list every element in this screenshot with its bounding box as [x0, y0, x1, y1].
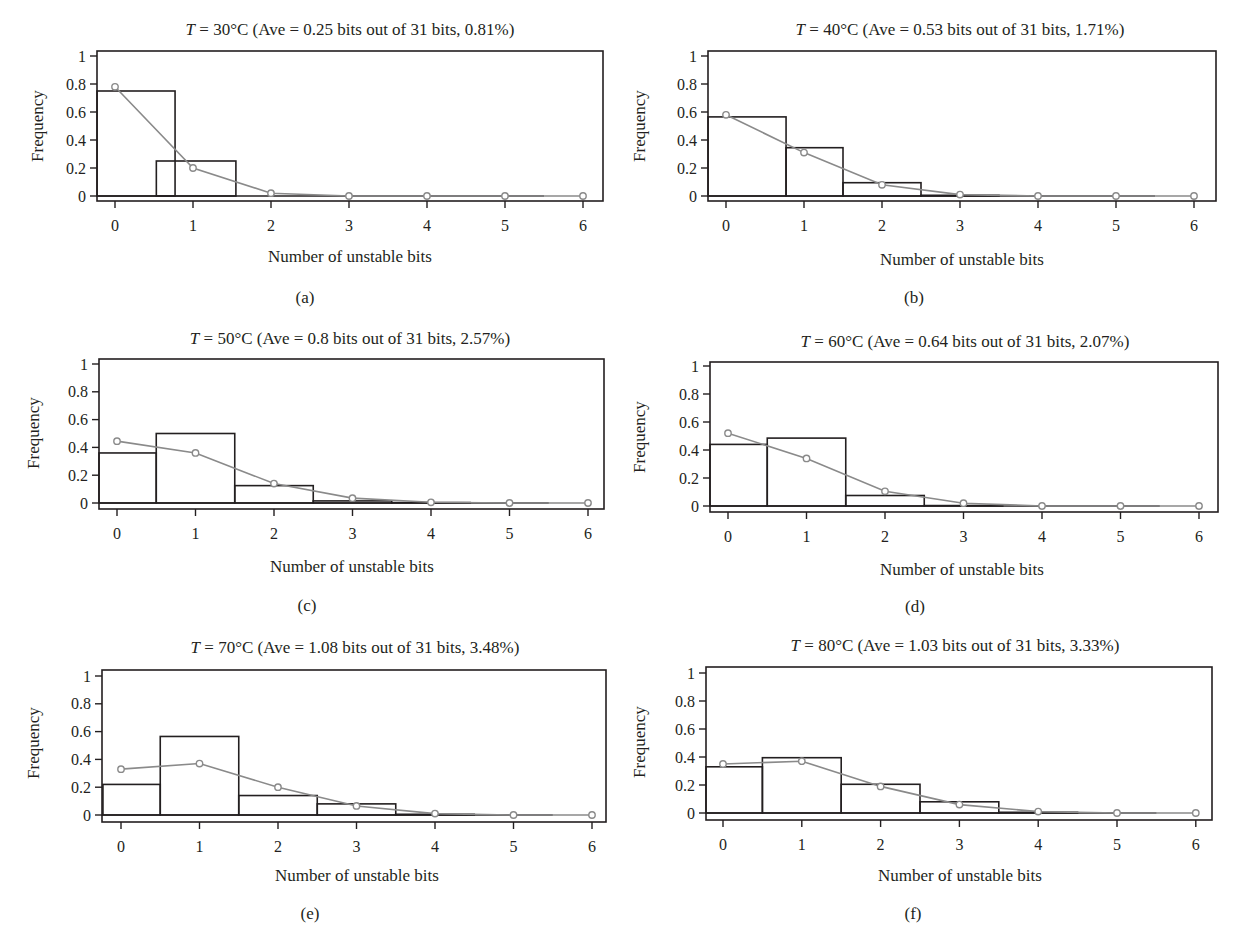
- x-tick-label: 6: [1192, 836, 1200, 853]
- data-marker: [720, 761, 726, 767]
- y-tick-label: 0.4: [675, 749, 695, 766]
- x-tick-label: 0: [719, 836, 727, 853]
- data-marker: [799, 758, 805, 764]
- y-tick-label: 0.6: [675, 721, 695, 738]
- data-marker: [1035, 808, 1041, 814]
- x-tick-label: 1: [798, 836, 806, 853]
- x-tick-label: 5: [1113, 836, 1121, 853]
- histogram-bar: [706, 767, 762, 813]
- data-marker: [1114, 810, 1120, 816]
- y-tick-label: 1: [687, 665, 695, 682]
- data-marker: [956, 801, 962, 807]
- y-tick-label: 0.8: [675, 693, 695, 710]
- plot-area: 00.20.40.60.810123456: [0, 0, 1239, 950]
- x-tick-label: 4: [1034, 836, 1042, 853]
- histogram-bar: [762, 758, 841, 813]
- plot-frame: [706, 667, 1212, 820]
- panel-sublabel: (f): [893, 904, 933, 924]
- y-tick-label: 0: [687, 805, 695, 822]
- data-marker: [1193, 810, 1199, 816]
- x-axis-label: Number of unstable bits: [860, 866, 1060, 886]
- y-tick-label: 0.2: [675, 777, 695, 794]
- x-tick-label: 2: [877, 836, 885, 853]
- x-tick-label: 3: [955, 836, 963, 853]
- data-marker: [877, 783, 883, 789]
- y-axis-label: Frequency: [630, 692, 650, 792]
